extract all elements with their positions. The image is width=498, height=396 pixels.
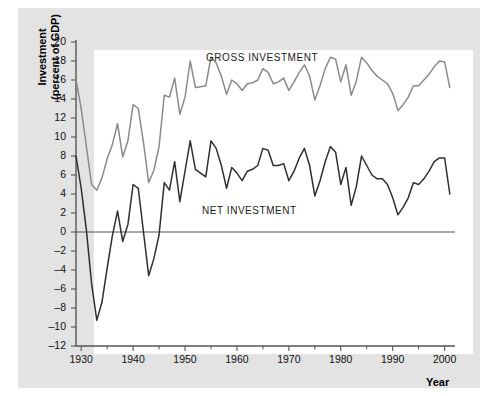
y-tick-label: 20 <box>40 35 66 47</box>
x-tick-label: 2000 <box>422 353 468 365</box>
x-tick-label: 1980 <box>318 353 364 365</box>
net-investment-label: NET INVESTMENT <box>202 205 297 216</box>
y-tick-label: 16 <box>40 73 66 85</box>
axis-ticks <box>71 42 445 351</box>
y-tick-label: –2 <box>40 244 66 256</box>
y-tick-label: 6 <box>40 168 66 180</box>
x-tick-label: 1970 <box>266 353 312 365</box>
x-tick-label: 1930 <box>58 353 104 365</box>
y-tick-label: 10 <box>40 130 66 142</box>
x-tick-label: 1950 <box>162 353 208 365</box>
y-tick-label: –8 <box>40 301 66 313</box>
y-tick-label: 4 <box>40 187 66 199</box>
y-tick-label: –12 <box>40 339 66 351</box>
y-tick-label: –4 <box>40 263 66 275</box>
y-tick-label: 12 <box>40 111 66 123</box>
y-tick-label: 8 <box>40 149 66 161</box>
gross-investment-label: GROSS INVESTMENT <box>206 52 318 63</box>
y-tick-label: –10 <box>40 320 66 332</box>
x-tick-label: 1940 <box>110 353 156 365</box>
y-tick-label: 14 <box>40 92 66 104</box>
x-tick-label: 1960 <box>214 353 260 365</box>
y-tick-label: 2 <box>40 206 66 218</box>
y-tick-label: 18 <box>40 54 66 66</box>
series-line-gross <box>76 57 450 190</box>
axis-lines <box>76 40 455 346</box>
y-tick-label: 0 <box>40 225 66 237</box>
y-tick-label: –6 <box>40 282 66 294</box>
figure-page: Investment (percent of GDP) Year –12–10–… <box>0 0 498 396</box>
data-series <box>76 57 450 320</box>
x-tick-label: 1990 <box>370 353 416 365</box>
series-line-net <box>76 141 450 321</box>
